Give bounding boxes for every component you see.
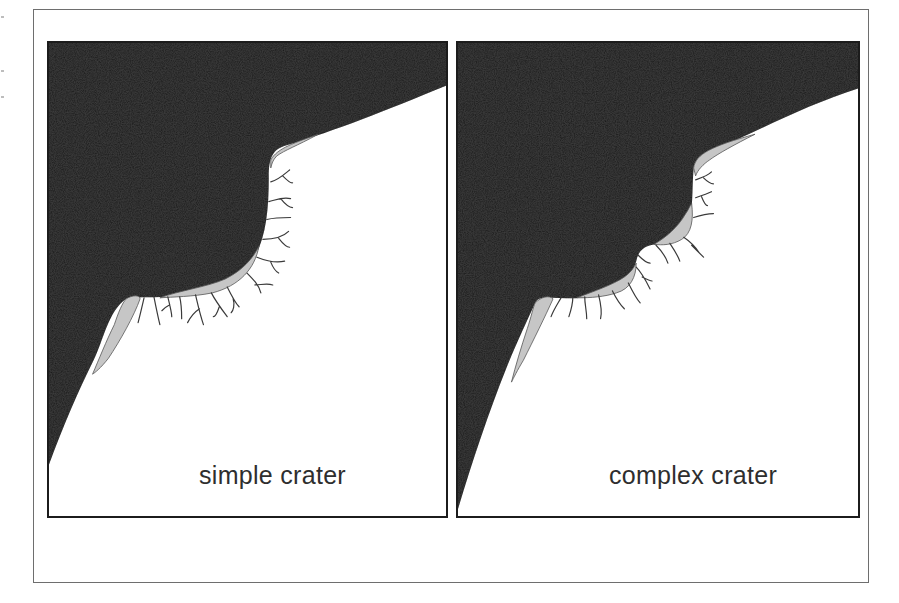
- complex-crater-panel: complex crater: [456, 41, 860, 518]
- complex-crater-illustration: [458, 43, 858, 516]
- simple-crater-label: simple crater: [49, 461, 446, 490]
- rock-mass: [458, 43, 858, 509]
- simple-crater-panel: simple crater: [47, 41, 448, 518]
- complex-crater-label: complex crater: [458, 461, 858, 490]
- simple-crater-illustration: [49, 43, 446, 516]
- rock-mass: [49, 43, 446, 464]
- scan-edge-marks: [0, 10, 8, 130]
